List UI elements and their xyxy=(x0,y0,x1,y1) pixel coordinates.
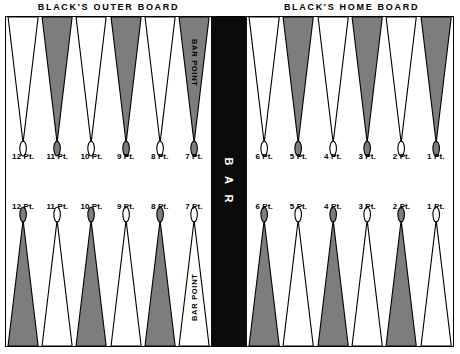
point-9[interactable]: 9 Pt. xyxy=(109,203,143,346)
point-triangle xyxy=(352,17,382,143)
point-label-6: 6 Pt. xyxy=(247,202,281,211)
point-label-1: 1 Pt. xyxy=(419,152,453,161)
point-9[interactable]: 9 Pt. xyxy=(109,17,143,160)
outer-board-heading: BLACK'S OUTER BOARD xyxy=(6,2,211,12)
point-label-2: 2 Pt. xyxy=(384,202,418,211)
point-triangle xyxy=(283,17,313,143)
point-triangle xyxy=(111,17,141,143)
point-4[interactable]: 4 Pt. xyxy=(316,203,350,346)
bar-strip: B A R xyxy=(211,17,247,346)
quadrant-black-outer-board: 12 Pt.11 Pt.10 Pt.9 Pt.8 Pt.7 Pt.BAR POI… xyxy=(6,17,211,160)
point-label-5: 5 Pt. xyxy=(281,202,315,211)
point-label-2: 2 Pt. xyxy=(384,152,418,161)
point-label-7: 7 Pt. xyxy=(177,202,211,211)
point-2[interactable]: 2 Pt. xyxy=(384,203,418,346)
point-2[interactable]: 2 Pt. xyxy=(384,17,418,160)
point-1[interactable]: 1 Pt. xyxy=(419,203,453,346)
point-8[interactable]: 8 Pt. xyxy=(143,17,177,160)
point-label-11: 11 Pt. xyxy=(40,152,74,161)
point-triangle xyxy=(76,220,106,346)
backgammon-board-diagram: BLACK'S OUTER BOARD BLACK'S HOME BOARD 1… xyxy=(0,0,460,354)
point-label-9: 9 Pt. xyxy=(109,202,143,211)
point-8[interactable]: 8 Pt. xyxy=(143,203,177,346)
point-3[interactable]: 3 Pt. xyxy=(350,203,384,346)
point-triangle xyxy=(421,17,451,143)
point-5[interactable]: 5 Pt. xyxy=(281,203,315,346)
point-triangle xyxy=(8,17,38,143)
point-label-12: 12 Pt. xyxy=(6,152,40,161)
point-triangle xyxy=(421,220,451,346)
point-1[interactable]: 1 Pt. xyxy=(419,17,453,160)
quadrant-black-home-board: 6 Pt.5 Pt.4 Pt.3 Pt.2 Pt.1 Pt. xyxy=(247,17,453,160)
point-triangle xyxy=(42,220,72,346)
point-label-5: 5 Pt. xyxy=(281,152,315,161)
point-12[interactable]: 12 Pt. xyxy=(6,203,40,346)
point-triangle xyxy=(352,220,382,346)
point-triangle xyxy=(42,17,72,143)
bar-label: B A R xyxy=(223,157,235,206)
bar-point-caption: BAR POINT xyxy=(189,39,198,87)
point-triangle xyxy=(249,220,279,346)
point-triangle xyxy=(111,220,141,346)
point-label-11: 11 Pt. xyxy=(40,202,74,211)
board-frame: 12 Pt.11 Pt.10 Pt.9 Pt.8 Pt.7 Pt.BAR POI… xyxy=(5,16,454,347)
point-label-9: 9 Pt. xyxy=(109,152,143,161)
bar-point-caption: BAR POINT xyxy=(189,273,198,321)
point-12[interactable]: 12 Pt. xyxy=(6,17,40,160)
point-4[interactable]: 4 Pt. xyxy=(316,17,350,160)
point-triangle xyxy=(249,17,279,143)
point-3[interactable]: 3 Pt. xyxy=(350,17,384,160)
point-10[interactable]: 10 Pt. xyxy=(74,203,108,346)
point-10[interactable]: 10 Pt. xyxy=(74,17,108,160)
point-triangle xyxy=(145,17,175,143)
point-label-3: 3 Pt. xyxy=(350,152,384,161)
point-label-1: 1 Pt. xyxy=(419,202,453,211)
point-triangle xyxy=(386,220,416,346)
quadrant-white-home-board: 6 Pt.5 Pt.4 Pt.3 Pt.2 Pt.1 Pt. xyxy=(247,203,453,346)
point-6[interactable]: 6 Pt. xyxy=(247,203,281,346)
point-triangle xyxy=(145,220,175,346)
point-triangle xyxy=(318,220,348,346)
point-triangle xyxy=(283,220,313,346)
point-label-3: 3 Pt. xyxy=(350,202,384,211)
point-label-4: 4 Pt. xyxy=(316,202,350,211)
point-label-7: 7 Pt. xyxy=(177,152,211,161)
quadrant-white-outer-board: 12 Pt.11 Pt.10 Pt.9 Pt.8 Pt.7 Pt.BAR POI… xyxy=(6,203,211,346)
point-label-10: 10 Pt. xyxy=(74,152,108,161)
point-triangle xyxy=(386,17,416,143)
point-label-10: 10 Pt. xyxy=(74,202,108,211)
point-triangle xyxy=(76,17,106,143)
point-11[interactable]: 11 Pt. xyxy=(40,17,74,160)
point-7[interactable]: 7 Pt.BAR POINT xyxy=(177,17,211,160)
point-label-8: 8 Pt. xyxy=(143,152,177,161)
home-board-heading: BLACK'S HOME BOARD xyxy=(249,2,454,12)
point-6[interactable]: 6 Pt. xyxy=(247,17,281,160)
point-11[interactable]: 11 Pt. xyxy=(40,203,74,346)
point-triangle xyxy=(8,220,38,346)
point-label-6: 6 Pt. xyxy=(247,152,281,161)
point-5[interactable]: 5 Pt. xyxy=(281,17,315,160)
point-label-8: 8 Pt. xyxy=(143,202,177,211)
point-label-4: 4 Pt. xyxy=(316,152,350,161)
point-7[interactable]: 7 Pt.BAR POINT xyxy=(177,203,211,346)
point-label-12: 12 Pt. xyxy=(6,202,40,211)
point-triangle xyxy=(318,17,348,143)
